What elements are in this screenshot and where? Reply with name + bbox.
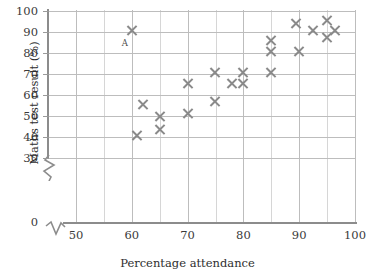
- data-point-marker: [209, 95, 222, 108]
- y-tick-mark: [43, 137, 49, 138]
- data-point-marker: [265, 45, 278, 58]
- data-point-marker: [181, 77, 194, 90]
- data-point-marker: [329, 24, 342, 37]
- data-point-marker: [131, 129, 144, 142]
- data-point-marker: [136, 98, 149, 111]
- y-tick-label: 0: [8, 215, 38, 229]
- gridline-horizontal: [48, 137, 356, 138]
- y-tick-mark: [43, 116, 49, 117]
- x-tick-label: 60: [112, 228, 152, 242]
- gridline-horizontal: [48, 74, 356, 75]
- data-point-marker: [290, 17, 303, 30]
- scatter-plot-figure: A 0304050607080901005060708090100 Maths …: [0, 0, 375, 276]
- data-point-marker: [237, 77, 250, 90]
- y-axis-title: Maths test result (%): [27, 33, 41, 173]
- data-point-marker: [153, 123, 166, 136]
- y-tick-mark: [43, 95, 49, 96]
- x-tick-label: 90: [279, 228, 319, 242]
- data-point-marker: [181, 107, 194, 120]
- data-point-marker: [293, 45, 306, 58]
- gridline-horizontal: [48, 53, 356, 54]
- gridline-horizontal: [48, 95, 356, 96]
- y-tick-mark: [43, 74, 49, 75]
- y-tick-mark: [43, 53, 49, 54]
- data-point-marker: [125, 24, 138, 37]
- gridline-horizontal: [48, 116, 356, 117]
- plot-area: A: [48, 10, 356, 223]
- x-tick-label: 80: [223, 228, 263, 242]
- y-tick-mark: [43, 158, 49, 159]
- data-point-marker: [153, 110, 166, 123]
- data-point-marker: [307, 24, 320, 37]
- y-tick-label: 100: [8, 4, 38, 18]
- y-axis-break-icon: [38, 155, 60, 181]
- gridline-horizontal: [48, 158, 356, 159]
- x-tick-label: 70: [168, 228, 208, 242]
- point-annotation-label: A: [122, 38, 128, 48]
- data-point-marker: [265, 66, 278, 79]
- y-tick-mark: [43, 11, 49, 12]
- y-tick-mark: [43, 32, 49, 33]
- x-tick-label: 100: [335, 228, 375, 242]
- x-tick-label: 50: [56, 228, 96, 242]
- gridline-horizontal: [48, 11, 356, 12]
- x-axis-line: [63, 222, 357, 224]
- x-axis-title: Percentage attendance: [0, 256, 375, 270]
- data-point-marker: [209, 66, 222, 79]
